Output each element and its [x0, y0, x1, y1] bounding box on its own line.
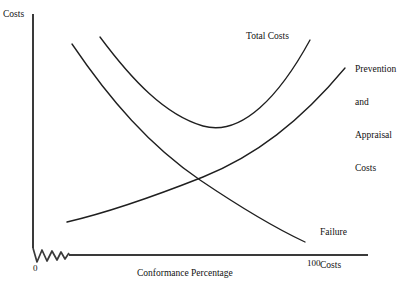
total-costs-label: Total Costs [246, 31, 289, 42]
cost-of-quality-chart: Costs Conformance Percentage 0 100 Total… [0, 0, 401, 287]
failure-costs-curve [72, 44, 305, 242]
total-costs-curve [100, 37, 310, 128]
prevention-label-line-2: and [355, 97, 396, 108]
x-tick-label-0: 0 [33, 263, 38, 274]
failure-costs-label: Failure Costs [320, 205, 347, 287]
x-axis-title: Conformance Percentage [137, 268, 233, 279]
axis-break-zigzag-icon [33, 248, 69, 262]
failure-label-line-2: Costs [320, 260, 347, 271]
prevention-label-line-4: Costs [355, 163, 396, 174]
prevention-appraisal-costs-label: Prevention and Appraisal Costs [355, 42, 396, 196]
y-axis-title: Costs [3, 9, 24, 20]
x-tick-label-100: 100 [307, 258, 321, 269]
prevention-label-line-3: Appraisal [355, 130, 396, 141]
prevention-appraisal-costs-curve [67, 68, 345, 222]
failure-label-line-1: Failure [320, 227, 347, 238]
prevention-label-line-1: Prevention [355, 64, 396, 75]
